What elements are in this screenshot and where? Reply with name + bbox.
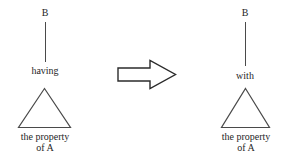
right-relation-label: with	[220, 70, 270, 81]
right-caption: the property of A	[205, 131, 287, 153]
left-structure: B having the property of A	[0, 0, 110, 165]
right-caption-line-1: the property	[205, 131, 287, 142]
left-relation-label: having	[20, 65, 70, 76]
diagram-canvas: B having the property of A B with the pr…	[0, 0, 291, 165]
right-caption-line-2: of A	[205, 142, 287, 153]
right-triangle-icon	[218, 85, 274, 131]
right-block-arrow-icon	[117, 59, 177, 90]
left-caption: the property of A	[5, 131, 85, 153]
right-top-node-label: B	[230, 8, 260, 18]
left-triangle-icon	[14, 85, 76, 131]
left-top-node-label: B	[30, 8, 60, 18]
left-caption-line-1: the property	[5, 131, 85, 142]
right-edge-line	[245, 22, 246, 66]
left-edge-line	[45, 22, 46, 62]
left-caption-line-2: of A	[5, 142, 85, 153]
right-structure: B with the property of A	[180, 0, 291, 165]
